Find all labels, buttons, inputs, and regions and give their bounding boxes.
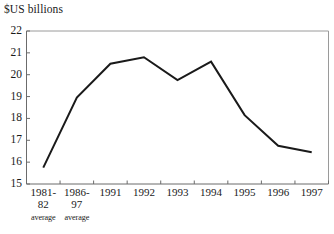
data-series-line (43, 57, 311, 167)
y-tick-label: 22 (0, 25, 22, 37)
y-tick-label: 15 (0, 178, 22, 190)
y-tick-label: 17 (0, 134, 22, 146)
x-tick-label-sub: average (56, 212, 98, 223)
x-tick-label-line1: 1993 (166, 186, 188, 198)
x-tick-label-line1: 1994 (200, 186, 222, 198)
x-axis-ticks (27, 181, 329, 185)
y-tick-label: 18 (0, 112, 22, 124)
y-tick-label: 21 (0, 47, 22, 59)
x-tick-label-line1: 1981- (30, 186, 56, 198)
x-tick-label-line1: 1995 (234, 186, 256, 198)
x-tick-label-line1: 1997 (301, 186, 323, 198)
x-tick-label-line2: 97 (56, 199, 98, 211)
x-tick-label-line1: 1986- (64, 186, 90, 198)
x-tick-label-line1: 1996 (267, 186, 289, 198)
y-tick-label: 20 (0, 69, 22, 81)
x-tick-label: 1997 (291, 187, 333, 199)
x-tick-label-line1: 1992 (133, 186, 155, 198)
y-tick-label: 19 (0, 91, 22, 103)
x-tick-label-line1: 1991 (99, 186, 121, 198)
y-axis-ticks (27, 31, 31, 184)
y-tick-label: 16 (0, 156, 22, 168)
chart-figure: $US billions 2221201918171615 1981-82ave… (0, 0, 334, 234)
